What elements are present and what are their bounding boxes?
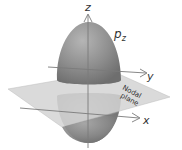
z-axis-label: z [84, 1, 91, 14]
x-axis-label: x [142, 114, 150, 127]
pz-orbital-diagram: z y x pz Nodal plane [0, 0, 182, 150]
upper-lobe [57, 22, 121, 85]
orbital-label: pz [113, 27, 127, 43]
y-axis-label: y [146, 70, 154, 83]
